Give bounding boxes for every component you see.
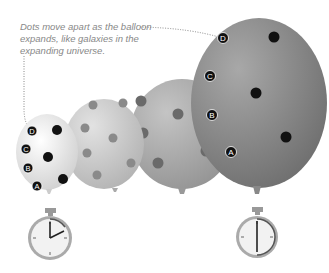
label-c-large: C — [205, 71, 216, 82]
label-b-small: B — [23, 163, 33, 173]
svg-text:D: D — [29, 127, 35, 136]
svg-text:B: B — [209, 111, 214, 120]
label-d-small: D — [27, 126, 37, 136]
svg-text:C: C — [207, 72, 213, 81]
balloon-diagram: D C B A D C B A — [0, 0, 329, 273]
label-d-large: D — [218, 33, 229, 44]
svg-text:A: A — [228, 148, 234, 157]
stopwatch-right-icon — [236, 207, 278, 258]
label-a-small: A — [32, 181, 42, 191]
svg-text:C: C — [23, 145, 29, 154]
svg-text:B: B — [25, 164, 30, 173]
leader-line-right — [140, 27, 222, 38]
label-a-large: A — [226, 147, 237, 158]
leader-line-left — [24, 56, 30, 128]
label-c-small: C — [21, 144, 31, 154]
label-b-large: B — [207, 110, 218, 121]
svg-text:D: D — [220, 34, 226, 43]
balloon-small: D C B A — [16, 114, 78, 194]
stopwatch-left-icon — [28, 208, 72, 260]
svg-text:A: A — [34, 182, 39, 191]
